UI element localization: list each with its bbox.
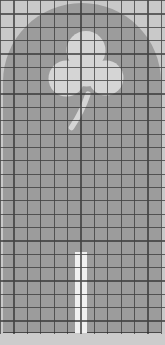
clover-icon — [40, 25, 135, 135]
clover-stem — [72, 94, 89, 128]
vertical-stripe — [75, 252, 87, 333]
clover-center-fill — [71, 56, 102, 87]
clover-lobes — [49, 31, 124, 97]
bottom-margin — [0, 334, 165, 345]
pattern-canvas — [0, 0, 165, 345]
